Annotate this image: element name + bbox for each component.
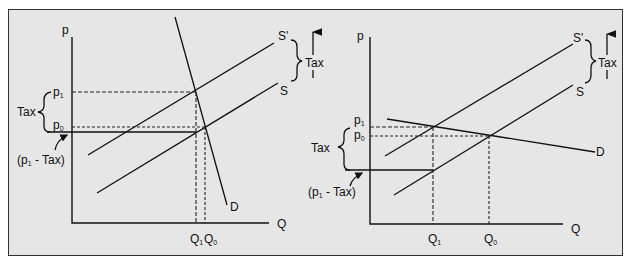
shift-brace — [291, 40, 302, 81]
demand-label: D — [230, 200, 239, 214]
panel-inelastic-demand: p Q S' S D p1 p0 Tax (p1 - Tax) Q1 Q0 — [17, 17, 324, 246]
q1-label: Q1 — [428, 232, 441, 246]
supply-label: S — [280, 84, 288, 98]
x-axis-label: Q — [571, 222, 580, 236]
demand-curve — [175, 17, 227, 205]
q0-label: Q0 — [204, 232, 217, 246]
p1-label: p1 — [53, 85, 64, 99]
tax-shift-label: Tax — [305, 56, 324, 70]
p1-label: p1 — [354, 113, 365, 127]
y-axis-label: p — [357, 29, 364, 43]
supply-shifted-curve — [88, 43, 274, 155]
tax-brace-left — [338, 128, 350, 170]
x-axis-label: Q — [277, 217, 286, 231]
y-axis-label: p — [62, 23, 69, 37]
supply-curve — [97, 83, 278, 193]
demand-label: D — [596, 145, 605, 159]
axes — [72, 37, 269, 223]
panel-elastic-demand: p Q S' S D p1 p0 Tax (p1 - Tax) Q1 Q0 — [308, 29, 617, 246]
p0-label: p0 — [354, 128, 365, 142]
axes — [370, 37, 563, 224]
tax-brace-label: Tax — [17, 105, 36, 119]
supply-shifted-label: S' — [573, 31, 583, 45]
supply-curve — [394, 85, 573, 195]
tax-incidence-diagrams: p Q S' S D p1 p0 Tax (p1 - Tax) Q1 Q0 — [0, 0, 632, 264]
supply-shifted-curve — [385, 44, 573, 156]
tax-brace-left — [38, 92, 51, 132]
tax-shift-label: Tax — [598, 56, 617, 70]
supply-label: S — [576, 85, 584, 99]
net-price-label: (p1 - Tax) — [17, 153, 65, 167]
q1-label: Q1 — [190, 232, 203, 246]
q0-label: Q0 — [484, 232, 497, 246]
p0-label: p0 — [53, 118, 64, 132]
net-price-arrow — [55, 135, 67, 150]
supply-shifted-label: S' — [278, 29, 288, 43]
tax-brace-label: Tax — [311, 141, 330, 155]
shift-brace — [585, 40, 596, 83]
net-price-label: (p1 - Tax) — [308, 185, 356, 199]
